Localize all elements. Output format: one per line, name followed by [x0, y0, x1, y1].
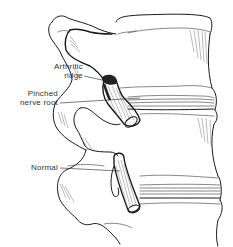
- spine-illustration: [0, 0, 233, 247]
- upper-disc: [128, 88, 216, 110]
- leader-normal: [60, 168, 120, 171]
- label-pinched-line2: nerve root: [8, 98, 58, 107]
- middle-facet: [53, 102, 120, 156]
- label-pinched-nerve-root: Pinched nerve root: [8, 89, 58, 107]
- middle-vertebra: [140, 110, 218, 178]
- label-pinched-line1: Pinched: [8, 89, 58, 98]
- upper-vertebra: [116, 14, 212, 88]
- lower-facet: [58, 150, 132, 244]
- pinched-nerve-root: [102, 75, 140, 130]
- lower-disc: [140, 176, 222, 246]
- leader-arthritic-ridge: [84, 76, 102, 80]
- label-arthritic-ridge: Arthritic ridge: [33, 62, 83, 80]
- normal-nerve-root: [111, 153, 141, 214]
- label-arthritic-line1: Arthritic: [33, 62, 83, 71]
- label-arthritic-line2: ridge: [33, 71, 83, 80]
- label-normal: Normal: [26, 163, 58, 172]
